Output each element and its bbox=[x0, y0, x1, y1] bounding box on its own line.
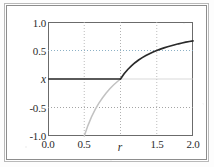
y-axis-tick-labels: 1.0 0.5 x -0.5 -1.0 bbox=[0, 22, 46, 136]
plot-area bbox=[48, 22, 193, 136]
y-tick-label-2: 0.5 bbox=[2, 46, 46, 57]
x-axis-tick-labels: 0.0 0.5 r 1.5 2.0 bbox=[48, 138, 193, 154]
x-axis-variable-label: r bbox=[103, 141, 137, 153]
y-tick-label-1: 1.0 bbox=[2, 18, 46, 29]
data-curves bbox=[48, 22, 193, 136]
x-tick-label-2: 0.5 bbox=[67, 138, 101, 150]
curve-stable-branch bbox=[121, 41, 194, 79]
screenshot-root: 1.0 0.5 x -0.5 -1.0 0.0 bbox=[0, 0, 214, 167]
y-tick-label-4: -0.5 bbox=[2, 103, 46, 114]
curve-unstable-branch bbox=[84, 79, 120, 136]
x-tick-label-5: 2.0 bbox=[176, 138, 210, 150]
x-tick-label-4: 1.5 bbox=[140, 138, 174, 150]
x-tick-label-1: 0.0 bbox=[31, 138, 65, 150]
y-axis-variable-label: x bbox=[2, 74, 46, 85]
